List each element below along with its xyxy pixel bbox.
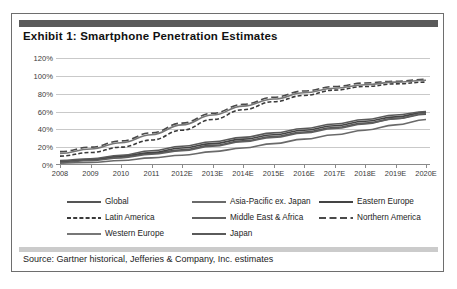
- y-axis-tick-label: 0%: [19, 161, 53, 170]
- x-axis-tick-label: 2012E: [171, 169, 192, 178]
- y-axis-tick-label: 80%: [19, 89, 53, 98]
- y-axis-tick-label: 120%: [19, 54, 53, 63]
- legend-line-swatch-icon: [192, 198, 226, 206]
- legend-line-swatch-icon: [192, 230, 226, 238]
- x-axis-tick-label: 2018E: [354, 169, 375, 178]
- legend-row: Latin AmericaMiddle East & AfricaNorther…: [19, 210, 438, 225]
- legend-item[interactable]: Middle East & Africa: [192, 210, 303, 225]
- x-axis-tick: [365, 165, 366, 168]
- legend-item[interactable]: Asia-Pacific ex. Japan: [192, 194, 311, 209]
- exhibit-container: Exhibit 1: Smartphone Penetration Estima…: [11, 13, 444, 272]
- y-axis-tick-label: 20%: [19, 143, 53, 152]
- x-axis-tick: [60, 165, 61, 168]
- legend-row: GlobalAsia-Pacific ex. JapanEastern Euro…: [19, 194, 438, 209]
- legend-item[interactable]: Eastern Europe: [319, 194, 414, 209]
- x-axis-tick-label: 2008: [52, 169, 68, 178]
- legend-label: Middle East & Africa: [230, 213, 303, 222]
- x-axis-tick: [426, 165, 427, 168]
- y-axis-labels: 0%20%40%60%80%100%120%: [19, 58, 53, 165]
- x-axis-tick-label: 2013E: [202, 169, 223, 178]
- x-axis-tick: [396, 165, 397, 168]
- exhibit-title: Exhibit 1: Smartphone Penetration Estima…: [23, 30, 423, 46]
- legend-label: Global: [105, 197, 129, 206]
- x-axis-tick-label: 2020E: [415, 169, 436, 178]
- legend-line-swatch-icon: [192, 214, 226, 222]
- x-axis-tick-label: 2015E: [263, 169, 284, 178]
- chart-legend: GlobalAsia-Pacific ex. JapanEastern Euro…: [19, 194, 438, 244]
- chart-area: 0%20%40%60%80%100%120% 20082009201020112…: [19, 50, 438, 192]
- x-axis-tick-label: 2009: [82, 169, 98, 178]
- x-axis-tick-label: 2010: [113, 169, 129, 178]
- plot-region: [56, 58, 430, 165]
- legend-line-swatch-icon: [67, 214, 101, 222]
- series-line: [60, 112, 426, 161]
- source-divider: [19, 247, 438, 252]
- x-axis-tick: [91, 165, 92, 168]
- x-axis-tick-label: 2014E: [232, 169, 253, 178]
- x-axis-tick: [121, 165, 122, 168]
- legend-label: Latin America: [105, 213, 155, 222]
- x-axis-tick: [335, 165, 336, 168]
- x-axis-tick: [304, 165, 305, 168]
- legend-item[interactable]: Japan: [192, 226, 252, 241]
- legend-label: Asia-Pacific ex. Japan: [230, 197, 311, 206]
- x-axis-tick: [274, 165, 275, 168]
- x-axis-tick: [243, 165, 244, 168]
- y-axis-tick-label: 60%: [19, 107, 53, 116]
- legend-row: Western EuropeJapan: [19, 226, 438, 241]
- legend-label: Western Europe: [105, 229, 164, 238]
- y-axis-tick-label: 100%: [19, 71, 53, 80]
- x-axis-labels: 20082009201020112012E2013E2014E2015E2016…: [56, 169, 430, 181]
- legend-label: Japan: [230, 229, 252, 238]
- legend-label: Eastern Europe: [357, 197, 414, 206]
- x-axis-tick: [213, 165, 214, 168]
- legend-item[interactable]: Latin America: [67, 210, 155, 225]
- x-axis-tick-label: 2019E: [385, 169, 406, 178]
- legend-line-swatch-icon: [319, 214, 353, 222]
- legend-line-swatch-icon: [319, 198, 353, 206]
- x-axis-tick-label: 2011: [144, 169, 160, 178]
- x-axis-tick-label: 2016E: [293, 169, 314, 178]
- legend-label: Northern America: [357, 213, 421, 222]
- x-axis-tick: [182, 165, 183, 168]
- legend-item[interactable]: Northern America: [319, 210, 421, 225]
- legend-item[interactable]: Western Europe: [67, 226, 164, 241]
- legend-item[interactable]: Global: [67, 194, 129, 209]
- x-axis-tick: [152, 165, 153, 168]
- title-divider: [19, 20, 438, 27]
- y-axis-tick-label: 40%: [19, 125, 53, 134]
- series-lines: [56, 58, 430, 165]
- x-axis-tick-label: 2017E: [324, 169, 345, 178]
- legend-line-swatch-icon: [67, 230, 101, 238]
- legend-line-swatch-icon: [67, 198, 101, 206]
- source-note: Source: Gartner historical, Jefferies & …: [23, 254, 431, 264]
